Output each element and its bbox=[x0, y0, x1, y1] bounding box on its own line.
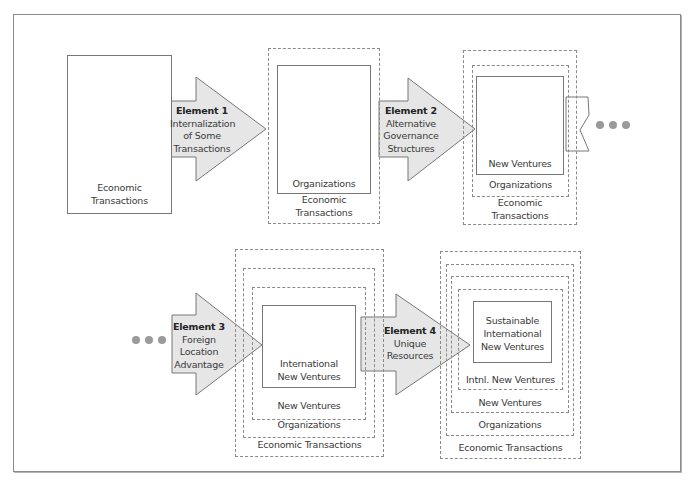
stage5-inner-line2: International bbox=[474, 328, 551, 341]
continuation-dot-5 bbox=[145, 336, 153, 344]
continuation-dot-1 bbox=[596, 121, 604, 129]
stage5-level5-label: Economic Transactions bbox=[441, 442, 580, 455]
stage3-outer-line2: Transactions bbox=[464, 210, 576, 223]
stage5-level4-label: Organizations bbox=[447, 419, 573, 432]
stage2-organizations-box: Organizations bbox=[277, 65, 371, 194]
element3-line1: Foreign bbox=[170, 334, 228, 347]
stage3-outer-line1: Economic bbox=[464, 197, 576, 210]
element4-title: Element 4 bbox=[384, 325, 436, 338]
element2-line1: Alternative bbox=[380, 118, 442, 131]
continuation-dot-6 bbox=[158, 336, 166, 344]
stage4-international-new-ventures-box: International New Ventures bbox=[262, 305, 356, 388]
continuation-dot-3 bbox=[622, 121, 630, 129]
stage5-inner-line1: Sustainable bbox=[474, 315, 551, 328]
element2-line2: Governance bbox=[380, 130, 442, 143]
stage4-level4-label: Economic Transactions bbox=[236, 439, 383, 452]
stage5-level2-label: Intnl. New Ventures bbox=[459, 374, 562, 387]
continuation-dot-2 bbox=[609, 121, 617, 129]
element1-line1: Internalization bbox=[170, 118, 234, 131]
stage2-outer-line1: Economic bbox=[269, 194, 379, 207]
stage2-outer-line2: Transactions bbox=[269, 207, 379, 220]
stage5-sustainable-international-new-ventures-box: Sustainable International New Ventures bbox=[473, 301, 552, 363]
element2-title: Element 2 bbox=[380, 105, 442, 118]
element3-text: Element 3 Foreign Location Advantage bbox=[170, 321, 228, 371]
stage4-inner-line1: International bbox=[263, 358, 355, 371]
element3-line3: Advantage bbox=[170, 359, 228, 372]
element4-text: Element 4 Unique Resources bbox=[384, 325, 436, 363]
element1-line2: of Some bbox=[170, 130, 234, 143]
stage3-new-ventures-box: New Ventures bbox=[476, 76, 564, 175]
stage5-inner-line3: New Ventures bbox=[474, 341, 551, 354]
stage1-economic-transactions-box: Economic Transactions bbox=[67, 55, 172, 214]
element4-line2: Resources bbox=[384, 350, 436, 363]
stage5-level3-label: New Ventures bbox=[452, 397, 568, 410]
stage2-inner-label: Organizations bbox=[278, 178, 370, 191]
element4-line1: Unique bbox=[384, 338, 436, 351]
stage4-level3-label: Organizations bbox=[244, 419, 374, 432]
stage1-label-line2: Transactions bbox=[68, 195, 171, 208]
stage3-inner-label: New Ventures bbox=[477, 158, 563, 171]
stage3-middle-label: Organizations bbox=[473, 179, 568, 192]
element1-title: Element 1 bbox=[170, 105, 234, 118]
element2-line3: Structures bbox=[380, 143, 442, 156]
stage1-label-line1: Economic bbox=[68, 182, 171, 195]
stage4-level2-label: New Ventures bbox=[253, 400, 365, 413]
element1-text: Element 1 Internalization of Some Transa… bbox=[170, 105, 234, 155]
element1-line3: Transactions bbox=[170, 143, 234, 156]
element2-text: Element 2 Alternative Governance Structu… bbox=[380, 105, 442, 155]
element3-line2: Location bbox=[170, 346, 228, 359]
stage4-inner-line2: New Ventures bbox=[263, 371, 355, 384]
element3-title: Element 3 bbox=[170, 321, 228, 334]
continuation-dot-4 bbox=[132, 336, 140, 344]
